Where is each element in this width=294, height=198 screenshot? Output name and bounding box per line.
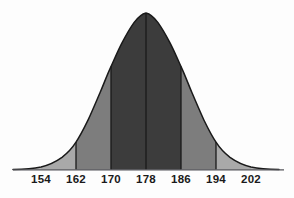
x-tick-label-202: 202 bbox=[241, 174, 261, 186]
x-tick-label-194: 194 bbox=[206, 174, 226, 186]
x-tick-label-178: 178 bbox=[136, 174, 156, 186]
x-tick-label-170: 170 bbox=[101, 174, 121, 186]
x-tick-label-154: 154 bbox=[31, 174, 51, 186]
normal-distribution-plot bbox=[0, 0, 294, 198]
bell-curve-chart: 154 162 170 178 186 194 202 bbox=[0, 0, 294, 198]
x-tick-label-162: 162 bbox=[66, 174, 86, 186]
x-tick-label-186: 186 bbox=[171, 174, 191, 186]
